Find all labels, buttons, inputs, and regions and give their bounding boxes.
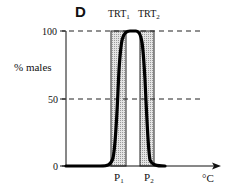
- x-tick-p1: P1: [114, 172, 124, 187]
- x-axis-unit: °C: [202, 173, 214, 184]
- y-tick-100: 100: [42, 26, 57, 37]
- x-tick-p2: P2: [144, 172, 154, 187]
- y-tick-0: 0: [53, 161, 58, 172]
- trt2-label: TRT2: [138, 8, 160, 23]
- y-tick-50: 50: [48, 94, 58, 105]
- trt1-label: TRT1: [108, 8, 130, 23]
- y-axis-title: % males: [14, 62, 52, 73]
- chart-canvas: [0, 0, 234, 188]
- panel-label: D: [75, 6, 86, 17]
